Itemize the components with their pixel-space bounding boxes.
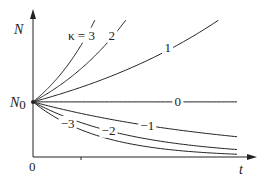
curve-label-kappa-1: 1	[164, 40, 171, 55]
curve-label-kappa-neg3: −3	[61, 116, 75, 131]
y-axis-arrow-icon	[30, 9, 36, 19]
curve-label-kappa-3: κ = 3	[68, 28, 95, 43]
x-axis-label: t	[239, 162, 244, 177]
curve-label-kappa-neg2: −2	[102, 123, 116, 138]
n0-label-main: N	[9, 95, 20, 110]
n0-label-subscript: 0	[19, 97, 26, 112]
x-axis-arrow-icon	[247, 154, 257, 160]
curve-kappa-1	[33, 20, 218, 102]
curve-label-kappa-2: 2	[108, 28, 115, 43]
curve-label-kappa-0: 0	[175, 94, 182, 109]
curve-label-kappa-neg1: −1	[140, 118, 154, 133]
y-axis-label: N	[13, 22, 24, 37]
origin-label: 0	[29, 159, 36, 174]
growth-decay-chart: κ = 3210−1−2−3 N t 0 N0	[0, 0, 267, 185]
n0-label: N0	[9, 95, 26, 112]
